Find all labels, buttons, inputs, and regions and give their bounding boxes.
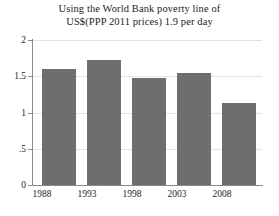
bar-series xyxy=(33,40,262,185)
x-tick-label-2008: 2008 xyxy=(196,189,248,200)
chart-title: Using the World Bank poverty line of US$… xyxy=(0,2,279,28)
y-tick-label-2: 2 xyxy=(21,35,26,45)
bar-2008 xyxy=(222,102,256,185)
bar-1988 xyxy=(42,68,76,185)
y-tick-label-1: 1 xyxy=(21,108,26,118)
y-tick-mark-0 xyxy=(28,185,33,186)
bar-1998 xyxy=(132,77,166,185)
bar-chart-figure: Using the World Bank poverty line of US$… xyxy=(0,0,279,216)
bar-1993 xyxy=(87,59,121,185)
chart-title-line-1: Using the World Bank poverty line of xyxy=(0,2,279,15)
y-tick-label-1point5: 1.5 xyxy=(14,71,26,81)
y-tick-label-point5: .5 xyxy=(19,144,26,154)
plot-area: 2 1.5 1 .5 0 xyxy=(33,40,262,185)
chart-title-line-2: US$(PPP 2011 prices) 1.9 per day xyxy=(0,15,279,28)
x-axis-spine xyxy=(32,185,263,186)
bar-2003 xyxy=(177,72,211,185)
